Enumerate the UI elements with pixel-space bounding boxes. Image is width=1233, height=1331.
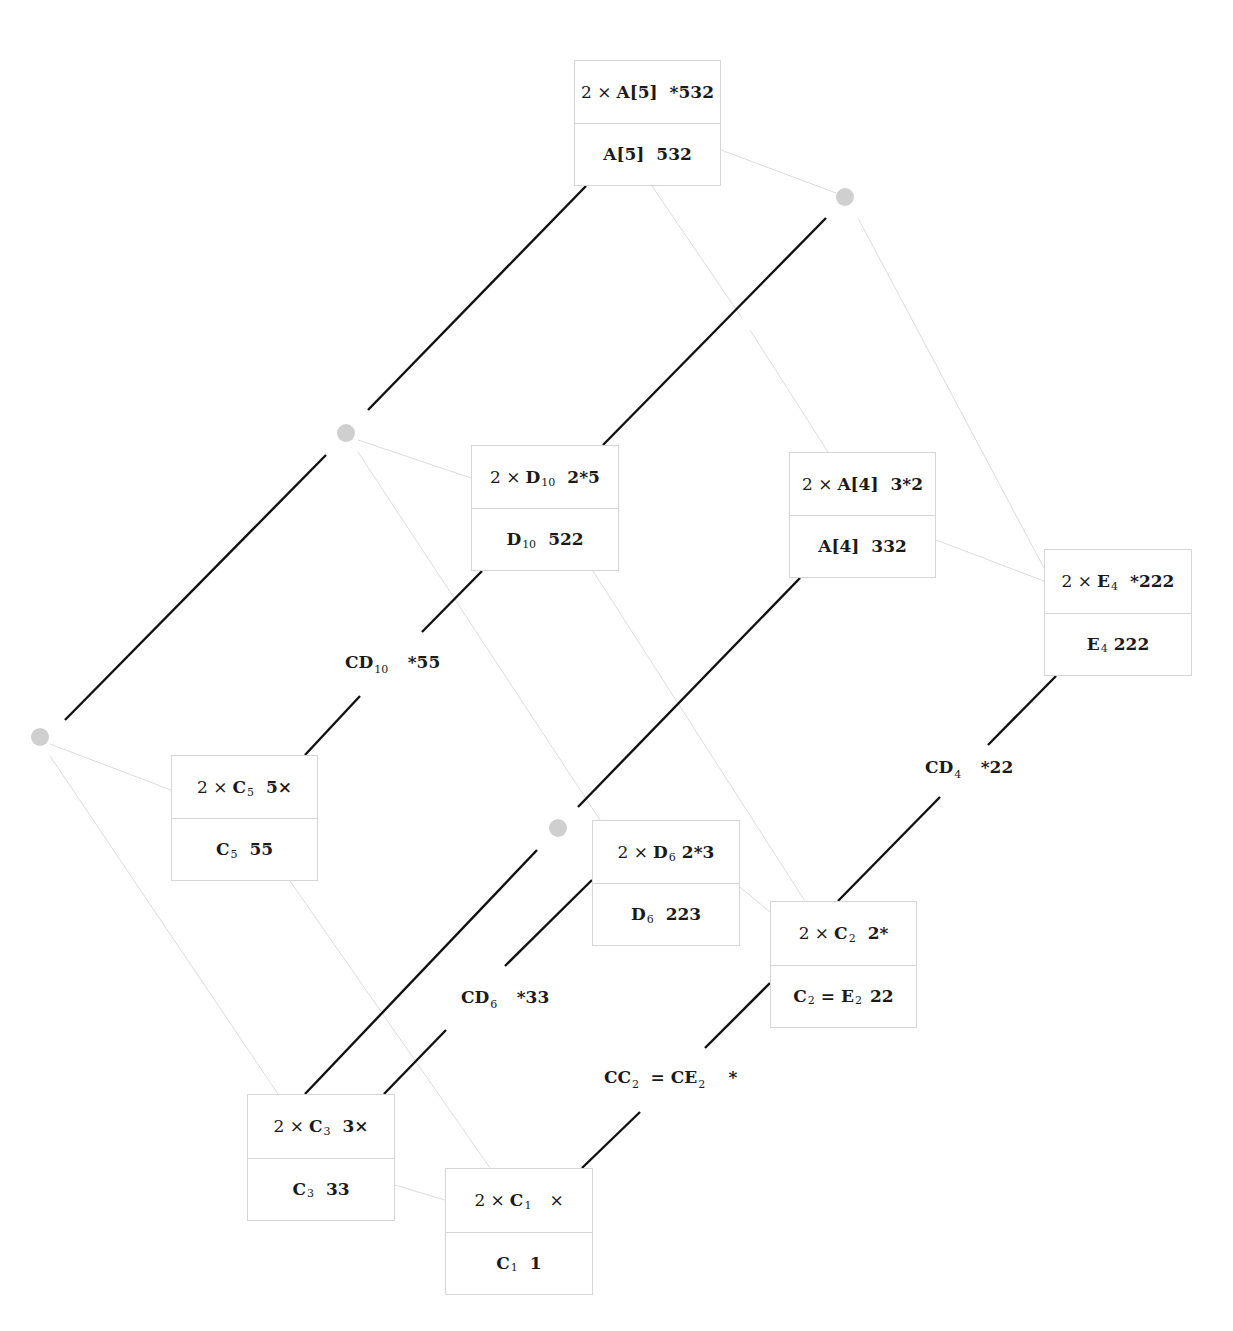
symbol: C (496, 1253, 510, 1273)
edge-a4-chain-1 (578, 578, 800, 807)
edge-a5-chain-1 (368, 186, 586, 410)
value: 3× (342, 1116, 368, 1136)
node-c3-top: 2 × C3 3× (248, 1095, 394, 1159)
value: 1 (530, 1253, 542, 1273)
node-c3-bottom: C3 33 (248, 1158, 394, 1221)
subscript: 1 (511, 1261, 518, 1274)
node-d10-bottom: D10 522 (472, 508, 618, 570)
multiplier: 2 × (490, 467, 520, 487)
node-a4-top: 2 × A[4] 3*2 (790, 453, 935, 516)
subscript: 4 (1111, 580, 1118, 593)
node-c1-top: 2 × C1 × (446, 1169, 592, 1233)
multiplier: 2 × (799, 923, 829, 943)
value: *55 (408, 652, 441, 672)
subscript: 1 (524, 1199, 531, 1212)
node-c2-bottom: C2 = E2 22 (771, 965, 916, 1028)
value: 222 (1114, 634, 1150, 654)
symbol: CD (345, 652, 373, 672)
subscript: 3 (323, 1125, 330, 1138)
symbol: A[5] (603, 144, 644, 164)
edge-d10-c5-1 (422, 571, 482, 632)
junction-dot (337, 424, 355, 442)
symbol: C (793, 986, 807, 1006)
symbol: E (1087, 634, 1100, 654)
subscript: 2 (855, 994, 862, 1007)
edge-dot2-d10 (358, 440, 471, 478)
node-a5: 2 × A[5] *532 A[5] 532 (574, 60, 721, 186)
multiplier: 2 × (618, 842, 648, 862)
multiplier: 2 × (802, 474, 832, 494)
subscript: 2 (808, 994, 815, 1007)
node-c5: 2 × C5 5× C5 55 (171, 755, 318, 881)
edge-d10-c5-2 (305, 696, 360, 755)
subscript: 2 (849, 932, 856, 945)
edge-label-cd10: CD10 *55 (345, 652, 440, 672)
multiplier: 2 × (581, 82, 611, 102)
symbol: CD (461, 987, 489, 1007)
value: 3*2 (891, 474, 924, 494)
edge-c2-c1-1 (705, 983, 770, 1048)
node-e4-bottom: E4 222 (1045, 613, 1191, 676)
node-d6-top: 2 × D6 2*3 (593, 821, 739, 884)
symbol: C (292, 1179, 306, 1199)
edge-d6-c3-1 (505, 880, 592, 966)
symbol: D (631, 904, 646, 924)
subscript: 2 (632, 1078, 639, 1091)
multiplier: 2 × (197, 777, 227, 797)
node-c1-bottom: C1 1 (446, 1232, 592, 1295)
subscript: 5 (230, 848, 237, 861)
subscript: 6 (490, 998, 497, 1011)
edge-d6-c2 (740, 887, 770, 912)
lattice-diagram: 2 × A[5] *532 A[5] 532 2 × D10 2*5 D10 5… (0, 0, 1233, 1331)
value: 223 (666, 904, 702, 924)
symbol: D (526, 467, 541, 487)
symbol: C (309, 1116, 323, 1136)
subscript: 10 (522, 538, 536, 551)
value: *222 (1130, 571, 1174, 591)
symbol: C (510, 1190, 524, 1210)
junction-dot (31, 728, 49, 746)
node-d10: 2 × D10 2*5 D10 522 (471, 445, 619, 571)
node-a4-bottom: A[4] 332 (790, 515, 935, 577)
edge-dot1-d10 (603, 218, 826, 445)
value: 2* (868, 923, 889, 943)
subscript: 6 (647, 913, 654, 926)
value: *33 (517, 987, 550, 1007)
symbol: C (834, 923, 848, 943)
edge-e4-c2-2 (838, 797, 940, 901)
node-c2-top: 2 × C2 2* (771, 902, 916, 966)
symbol: C (232, 777, 246, 797)
edge-c2-c1-2 (582, 1112, 640, 1168)
value: 532 (656, 144, 692, 164)
edge-a5-dot1 (721, 150, 836, 193)
node-e4: 2 × E4 *222 E4 222 (1044, 549, 1192, 676)
equivalent-symbol: = CE (650, 1067, 697, 1087)
edge-d6-c3-2 (384, 1030, 446, 1094)
value: 5× (266, 777, 292, 797)
symbol: C (216, 839, 230, 859)
node-a4: 2 × A[4] 3*2 A[4] 332 (789, 452, 936, 578)
thin-edges (50, 150, 1044, 1200)
symbol: A[4] (818, 536, 859, 556)
symbol: D (653, 842, 668, 862)
subscript: 2 (698, 1078, 705, 1091)
multiplier: 2 × (273, 1116, 303, 1136)
value: * (729, 1067, 738, 1087)
node-d6: 2 × D6 2*3 D6 223 (592, 820, 740, 946)
value: 2*5 (567, 467, 600, 487)
multiplier: 2 × (1062, 571, 1092, 591)
subscript: 6 (669, 851, 676, 864)
edge-label-cd4: CD4 *22 (925, 757, 1013, 777)
node-d10-top: 2 × D10 2*5 (472, 446, 618, 509)
node-c1: 2 × C1 × C1 1 (445, 1168, 593, 1295)
value: *22 (981, 757, 1014, 777)
node-c3: 2 × C3 3× C3 33 (247, 1094, 395, 1221)
junction-dot (836, 188, 854, 206)
node-e4-top: 2 × E4 *222 (1045, 550, 1191, 614)
edge-a4-e4 (936, 540, 1044, 581)
edge-label-cd6: CD6 *33 (461, 987, 549, 1007)
value: *532 (670, 82, 714, 102)
junction-dot (549, 819, 567, 837)
symbol: A[5] (616, 82, 657, 102)
value: 522 (548, 529, 584, 549)
